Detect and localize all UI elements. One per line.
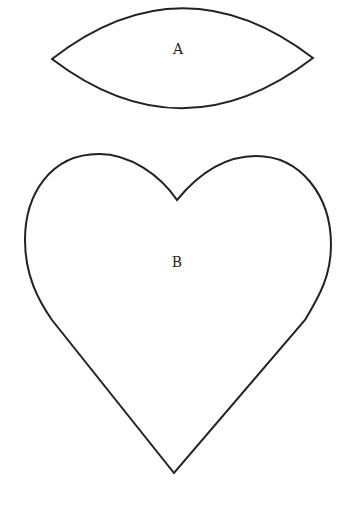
lens-outline — [52, 8, 313, 108]
label-a: A — [172, 41, 184, 57]
diagram-canvas: A B — [0, 0, 349, 507]
label-b: B — [172, 254, 182, 270]
shape-a-lens: A — [52, 8, 313, 108]
heart-outline — [25, 154, 331, 473]
shape-b-heart: B — [25, 154, 331, 473]
